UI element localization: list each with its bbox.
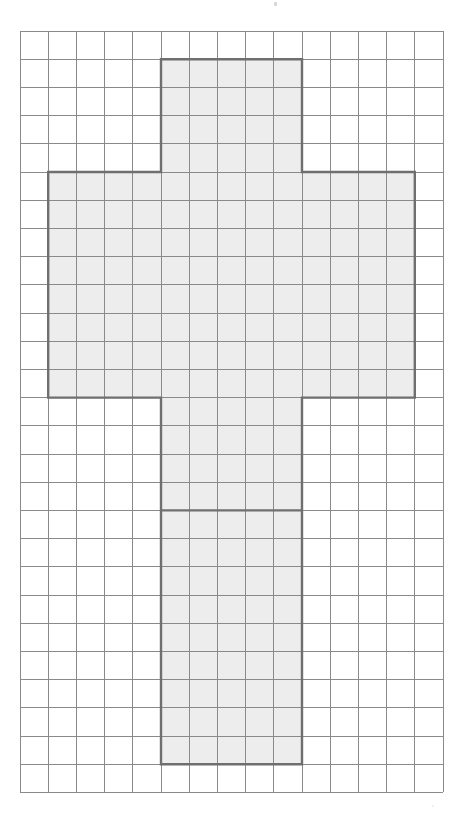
shape-part-stem	[161, 398, 302, 765]
scan-speck-top	[274, 2, 277, 6]
scan-speck-bottom-right	[432, 805, 434, 807]
grid-cross-figure	[0, 0, 467, 826]
figure-canvas: Grid cross / T-shape polyomino figure A …	[0, 0, 467, 826]
shape-fill-group	[48, 59, 415, 764]
